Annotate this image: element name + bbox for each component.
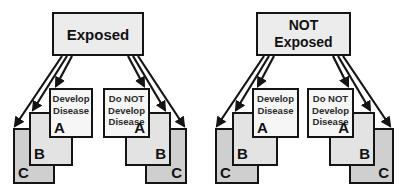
notexposed-develop-card-a: Develop Disease A [252,88,299,138]
card-label: C [220,165,231,180]
card-text: Develop Disease [254,90,297,116]
cohort-diagram: Exposed C B Develop Disease A C B Do NOT… [0,0,406,193]
card-text: Develop Disease [51,90,91,116]
exposed-header: Exposed [52,12,144,56]
card-label: B [34,146,45,161]
notexposed-notdevelop-card-a: Do NOT Develop Disease A [307,88,354,138]
exposed-develop-card-a: Develop Disease A [49,88,93,138]
card-label: B [237,146,248,161]
card-label: C [171,165,182,180]
card-label: C [18,165,29,180]
card-label: B [359,146,370,161]
card-label: A [54,120,65,135]
card-label: A [257,120,268,135]
card-label: A [338,120,349,135]
card-label: A [134,120,145,135]
card-label: B [155,146,166,161]
card-label: C [378,165,389,180]
exposed-notdevelop-card-a: Do NOT Develop Disease A [103,88,150,138]
not-exposed-header: NOT Exposed [256,12,351,56]
